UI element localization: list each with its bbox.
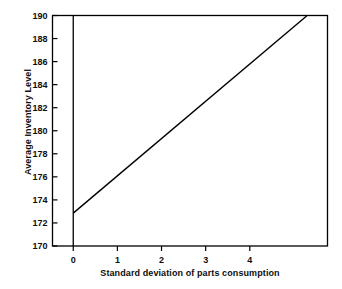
y-tick-label: 172	[32, 218, 47, 228]
line-chart: 170172174176178180182184186188190 01234	[0, 0, 342, 289]
y-tick-label: 178	[32, 149, 47, 159]
y-tick-label: 170	[32, 241, 47, 251]
y-tick-label: 180	[32, 126, 47, 136]
y-tick-label: 188	[32, 34, 47, 44]
y-tick-label: 182	[32, 103, 47, 113]
chart-figure: 170172174176178180182184186188190 01234 …	[0, 0, 342, 289]
y-tick-label: 186	[32, 57, 47, 67]
x-axis-title: Standard deviation of parts consumption	[52, 268, 328, 278]
x-tick-label: 2	[159, 255, 164, 265]
y-tick-label: 174	[32, 195, 47, 205]
x-tick-label: 3	[203, 255, 208, 265]
y-axis-title: Average Inventory Level	[23, 22, 33, 222]
y-tick-label: 184	[32, 80, 47, 90]
y-tick-label: 190	[32, 11, 47, 21]
x-tick-label: 0	[71, 255, 76, 265]
x-tick-label: 4	[247, 255, 252, 265]
x-tick-label: 1	[115, 255, 120, 265]
y-tick-label: 176	[32, 172, 47, 182]
